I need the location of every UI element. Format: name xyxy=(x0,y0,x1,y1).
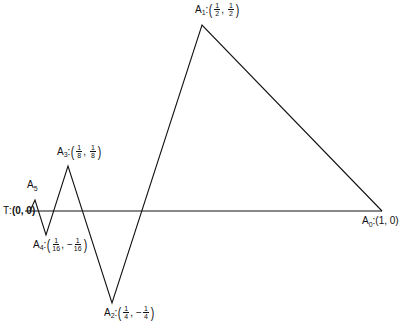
paren-close: ) xyxy=(236,2,240,17)
vertex-subscript: 3 xyxy=(64,151,68,158)
vertex-letter: A xyxy=(57,147,64,157)
minus-sign: − xyxy=(136,308,142,318)
denominator: 8 xyxy=(77,152,81,159)
denominator: 8 xyxy=(91,152,95,159)
comma: , xyxy=(61,240,64,250)
numerator: 1 xyxy=(90,144,96,152)
label-a3: A3: ( 18 , 18 ) xyxy=(57,144,102,159)
vertex-letter: A xyxy=(362,216,369,226)
numerator: 1 xyxy=(214,2,220,10)
numerator: 1 xyxy=(76,144,82,152)
y-fraction: 18 xyxy=(90,144,96,159)
paren-open: ( xyxy=(47,237,51,252)
label-a5: A5 xyxy=(27,180,38,190)
vertex-subscript: 1 xyxy=(202,9,206,16)
comma: , xyxy=(83,147,86,157)
vertex-subscript: 0 xyxy=(369,221,373,228)
paren-close: ) xyxy=(151,305,155,320)
label-a0: A0:(1, 0) xyxy=(362,216,399,226)
zigzag-plot xyxy=(0,0,399,329)
paren-open: ( xyxy=(209,2,213,17)
vertex-subscript: 5 xyxy=(34,185,38,192)
vertex-subscript: 2 xyxy=(111,312,115,319)
numerator: 1 xyxy=(75,237,81,245)
paren-close: ) xyxy=(98,144,102,159)
zigzag-path xyxy=(30,25,382,303)
y-fraction: 12 xyxy=(228,2,234,17)
vertex-letter: A xyxy=(27,180,34,190)
x-fraction: 116 xyxy=(52,237,60,252)
denominator: 4 xyxy=(144,313,148,320)
y-fraction: 116 xyxy=(74,237,82,252)
diagram-canvas: A1: ( 12 , 12 ) A3: ( 18 , 18 ) A5 T:(0,… xyxy=(0,0,399,329)
x-fraction: 12 xyxy=(214,2,220,17)
label-a2: A2: ( 14 , − 14 ) xyxy=(104,305,155,320)
denominator: 2 xyxy=(215,10,219,17)
y-fraction: 14 xyxy=(143,305,149,320)
origin-coord: (0, 0) xyxy=(12,206,35,216)
numerator: 1 xyxy=(123,305,129,313)
vertex-letter: A xyxy=(33,240,40,250)
numerator: 1 xyxy=(53,237,59,245)
numerator: 1 xyxy=(143,305,149,313)
denominator: 4 xyxy=(124,313,128,320)
label-a4: A4: ( 116 , − 116 ) xyxy=(33,237,88,252)
paren-close: ) xyxy=(83,237,87,252)
paren-open: ( xyxy=(118,305,122,320)
endpoint-coord: (1, 0) xyxy=(375,216,398,226)
label-a1: A1: ( 12 , 12 ) xyxy=(195,2,240,17)
denominator: 16 xyxy=(74,245,82,252)
x-fraction: 18 xyxy=(76,144,82,159)
denominator: 2 xyxy=(229,10,233,17)
comma: , xyxy=(130,308,133,318)
paren-open: ( xyxy=(71,144,75,159)
vertex-letter: A xyxy=(104,308,111,318)
x-fraction: 14 xyxy=(123,305,129,320)
denominator: 16 xyxy=(52,245,60,252)
numerator: 1 xyxy=(228,2,234,10)
vertex-subscript: 4 xyxy=(40,244,44,251)
label-t: T:(0, 0) xyxy=(3,206,35,216)
vertex-letter: A xyxy=(195,5,202,15)
minus-sign: − xyxy=(67,240,73,250)
comma: , xyxy=(221,5,224,15)
